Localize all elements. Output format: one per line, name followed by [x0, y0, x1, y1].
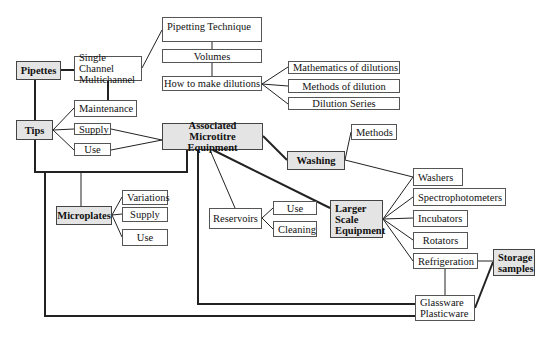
node-microplates: Microplates [56, 206, 112, 225]
node-microplates-use: Use [122, 229, 168, 246]
node-incubators: Incubators [413, 210, 468, 227]
node-glassware-plasticware: Glassware Plasticware [415, 295, 475, 321]
node-microplates-supply: Supply [122, 207, 168, 222]
node-reservoirs-use: Use [273, 201, 317, 215]
node-reservoirs: Reservoirs [209, 208, 262, 229]
node-storage-samples: Storage samples [493, 249, 535, 276]
concept-map: Pipettes Single Channel Multichannel Pip… [0, 0, 549, 337]
node-microplates-variations: Variations [122, 190, 168, 205]
node-larger-scale-equipment: Larger Scale Equipment [330, 200, 383, 238]
node-refrigeration: Refrigeration [413, 253, 478, 269]
node-tips-use: Use [74, 143, 111, 156]
node-washing: Washing [287, 151, 345, 170]
node-pipettes: Pipettes [16, 61, 61, 80]
node-washing-methods: Methods [351, 124, 397, 140]
node-spectrophotometers: Spectrophotometers [413, 188, 506, 206]
node-tips: Tips [16, 120, 53, 140]
node-pipetting-technique: Pipetting Technique [162, 17, 262, 42]
node-reservoirs-cleaning: Cleaning [273, 221, 317, 237]
node-rotators: Rotators [413, 232, 468, 249]
node-tips-supply: Supply [74, 123, 111, 135]
node-mathematics-of-dilutions: Mathematics of dilutions [288, 61, 400, 74]
connector-lines [0, 0, 549, 337]
node-maintenance: Maintenance [74, 100, 137, 117]
node-methods-of-dilution: Methods of dilution [288, 79, 400, 93]
node-single-multichannel: Single Channel Multichannel [74, 56, 142, 81]
node-volumes: Volumes [162, 49, 262, 63]
node-how-to-make-dilutions: How to make dilutions [162, 76, 262, 91]
node-washers: Washers [413, 168, 463, 186]
node-dilution-series: Dilution Series [288, 97, 400, 110]
node-associated-microtitre-equipment: Associated Microtitre Equipment [162, 123, 263, 150]
